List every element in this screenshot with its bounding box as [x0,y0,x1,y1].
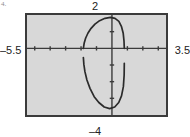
calculator-screen [25,13,168,117]
figure-container: 4. 2 –5.5 3.5 –4 [0,0,190,137]
plot-svg [27,15,166,115]
curve-upper-arc [83,17,124,48]
window-ymin-label: –4 [0,125,190,137]
curve-lower-arc [83,58,124,109]
window-xmax-label: 3.5 [168,44,190,56]
window-xmin-label: –5.5 [0,44,25,56]
plot-area [27,15,166,115]
window-ymax-label: 2 [0,0,190,12]
